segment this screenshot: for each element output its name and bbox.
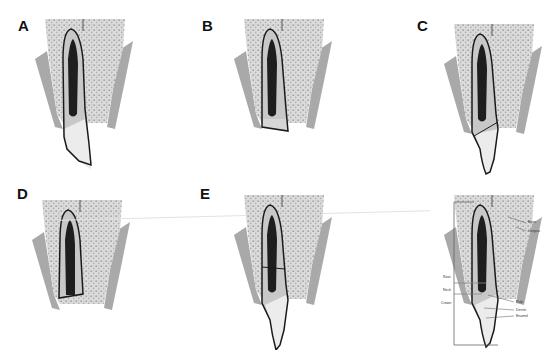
panel-a: A bbox=[0, 0, 140, 160]
label-gingiva: Gingiva bbox=[528, 229, 540, 233]
panel-d: D bbox=[0, 175, 140, 335]
tooth-diagram-b bbox=[190, 0, 330, 160]
label-root: Root bbox=[443, 275, 450, 279]
label-bone: Bone bbox=[528, 220, 536, 224]
panel-b: B bbox=[190, 0, 330, 160]
tooth-diagram-d bbox=[0, 175, 140, 335]
label-enamel: Enamel bbox=[516, 314, 528, 318]
panel-e: E bbox=[190, 175, 330, 350]
label-dentin: Dentin bbox=[516, 308, 526, 312]
label-crown: Crown bbox=[441, 301, 451, 305]
panel-f-anatomy: Bone Gingiva Root Neck Crown Pulp Dentin… bbox=[420, 190, 552, 350]
label-neck: Neck bbox=[443, 288, 451, 292]
tooth-diagram-e bbox=[190, 175, 330, 350]
panel-c: C bbox=[400, 0, 552, 180]
tooth-diagram-anatomy bbox=[420, 190, 552, 350]
tooth-diagram-a bbox=[0, 0, 140, 160]
tooth-diagram-c bbox=[400, 0, 552, 180]
label-pulp: Pulp bbox=[516, 300, 523, 304]
